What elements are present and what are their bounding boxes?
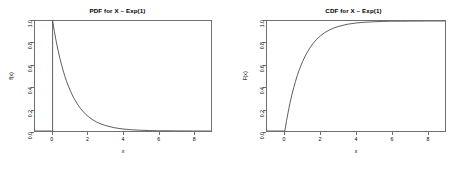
pdf-x-tick-label: 6 [157, 136, 160, 142]
pdf-y-tick-label: 1.0 [27, 20, 33, 27]
pdf-x-tick-label: 8 [193, 136, 196, 142]
pdf-x-axis-label: x [34, 148, 212, 154]
cdf-x-tick [284, 132, 285, 135]
pdf-y-tick-label: 0.0 [27, 132, 33, 139]
pdf-y-tick-label: 0.4 [27, 87, 33, 94]
cdf-plot-frame [266, 20, 446, 132]
figure-canvas: PDF for X ~ Exp(1) f(x) x 02468 0.00.20.… [0, 0, 471, 169]
pdf-panel: PDF for X ~ Exp(1) f(x) x 02468 0.00.20.… [0, 0, 235, 169]
pdf-curve-svg [35, 21, 211, 131]
cdf-x-axis-label: x [266, 148, 446, 154]
cdf-x-tick [356, 132, 357, 135]
cdf-y-tick-label: 1.0 [259, 20, 265, 27]
pdf-y-tick-label: 0.8 [27, 42, 33, 49]
cdf-x-tick [428, 132, 429, 135]
pdf-plot-title: PDF for X ~ Exp(1) [0, 7, 235, 14]
cdf-x-tick-label: 0 [283, 136, 286, 142]
cdf-plot-title: CDF for X ~ Exp(1) [236, 7, 471, 14]
cdf-y-tick-label: 0.4 [259, 87, 265, 94]
cdf-y-tick-label: 0.0 [259, 132, 265, 139]
cdf-x-tick [392, 132, 393, 135]
cdf-x-tick-label: 6 [391, 136, 394, 142]
cdf-x-tick-label: 8 [427, 136, 430, 142]
pdf-y-axis-label: f(x) [8, 72, 14, 80]
cdf-y-axis-label: F(x) [242, 71, 248, 80]
pdf-x-tick [123, 132, 124, 135]
cdf-x-tick-label: 4 [355, 136, 358, 142]
pdf-x-tick [159, 132, 160, 135]
cdf-x-tick [320, 132, 321, 135]
cdf-y-tick-label: 0.2 [259, 110, 265, 117]
pdf-plot-frame [34, 20, 212, 132]
pdf-x-tick-label: 4 [122, 136, 125, 142]
cdf-y-tick-label: 0.6 [259, 65, 265, 72]
pdf-y-tick-label: 0.6 [27, 65, 33, 72]
cdf-x-tick-label: 2 [319, 136, 322, 142]
pdf-y-tick-label: 0.2 [27, 110, 33, 117]
pdf-x-tick [87, 132, 88, 135]
pdf-x-tick-label: 0 [50, 136, 53, 142]
pdf-x-tick [52, 132, 53, 135]
cdf-curve-svg [267, 21, 445, 131]
cdf-panel: CDF for X ~ Exp(1) F(x) x 02468 0.00.20.… [236, 0, 471, 169]
cdf-y-tick-label: 0.8 [259, 42, 265, 49]
pdf-x-tick-label: 2 [86, 136, 89, 142]
pdf-x-tick [194, 132, 195, 135]
